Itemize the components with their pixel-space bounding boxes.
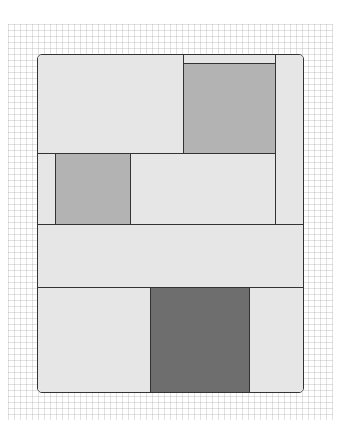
row2-left-strip xyxy=(37,153,56,225)
bottom-dark-square xyxy=(150,287,250,393)
row2-right-rect xyxy=(130,153,276,225)
bottom-left-rect xyxy=(37,287,151,393)
row2-medium-square xyxy=(55,153,131,225)
top-medium-square xyxy=(183,63,276,154)
right-column xyxy=(275,54,304,225)
quilt-layout xyxy=(37,54,304,393)
top-left-rect xyxy=(37,54,184,154)
middle-band xyxy=(37,224,304,289)
bottom-right-rect xyxy=(249,287,304,393)
